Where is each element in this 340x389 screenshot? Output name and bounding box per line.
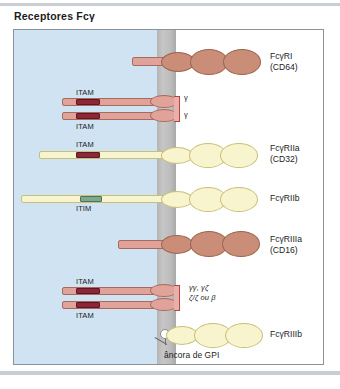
gamma-disulfide-bracket bbox=[174, 96, 180, 122]
fcgriia-ig-domain-3 bbox=[220, 143, 258, 168]
figure-title: Receptores Fcγ bbox=[14, 10, 95, 22]
itim-label: ITIM bbox=[76, 204, 91, 213]
fcgriiia-ig-domain-1 bbox=[161, 235, 193, 254]
fcgriiia-transmembrane-stalk bbox=[118, 240, 166, 249]
diagram-frame: FcγRI (CD64) ITAM ITAM γ γ ITAM FcγRIIa … bbox=[13, 29, 324, 365]
fcgriib-ig-domain-3 bbox=[220, 187, 258, 212]
figure-panel: Receptores Fcγ FcγRI (CD64) ITAM ITAM γ … bbox=[0, 0, 340, 389]
fcgri-label: FcγRI (CD64) bbox=[270, 51, 298, 73]
fcgriiia-label: FcγRIIIa (CD16) bbox=[270, 234, 302, 256]
itam-label-4: ITAM bbox=[76, 277, 94, 286]
gamma-label-2: γ bbox=[184, 110, 188, 119]
fcgriia-label: FcγRIIa (CD32) bbox=[270, 143, 300, 165]
fcgriia-cytoplasmic-tail bbox=[39, 151, 166, 159]
fcgriiia-cd: (CD16) bbox=[270, 245, 298, 255]
chain-disulfide-bracket bbox=[174, 285, 180, 311]
itam-box-5 bbox=[76, 302, 100, 308]
fcgriiib-ig-domain-3 bbox=[225, 323, 263, 348]
fcgriib-label: FcγRIIb bbox=[270, 193, 300, 204]
fcgriib-name: FcγRIIb bbox=[270, 193, 300, 203]
chain-composition-line-1: γγ, γζ bbox=[189, 283, 209, 292]
fcgriia-name: FcγRIIa bbox=[270, 143, 300, 153]
fcgri-name: FcγRI bbox=[270, 51, 292, 61]
fcgri-ig-domain-3 bbox=[223, 49, 261, 75]
fcgriia-cd: (CD32) bbox=[270, 154, 298, 164]
chain-composition-line-2: ζ/ζ ou β bbox=[189, 293, 216, 302]
fcgri-cd: (CD64) bbox=[270, 62, 298, 72]
itam-box-2 bbox=[76, 113, 100, 119]
itam-label-1: ITAM bbox=[76, 88, 94, 97]
itam-box-4 bbox=[76, 288, 100, 294]
fcgriiia-name: FcγRIIIa bbox=[270, 234, 302, 244]
gamma-label-1: γ bbox=[184, 93, 188, 102]
top-rule bbox=[0, 3, 340, 6]
fcgriiib-label: FcγRIIIb bbox=[270, 329, 302, 340]
itam-label-5: ITAM bbox=[76, 311, 94, 320]
itam-box-1 bbox=[76, 99, 100, 105]
itam-label-3: ITAM bbox=[76, 140, 94, 149]
fcgriiia-ig-domain-3 bbox=[222, 231, 260, 257]
itam-box-3 bbox=[76, 152, 100, 158]
bottom-rule bbox=[0, 371, 340, 375]
itim-box bbox=[80, 196, 102, 202]
fcgriiib-name: FcγRIIIb bbox=[270, 329, 302, 339]
itam-label-2: ITAM bbox=[76, 122, 94, 131]
gpi-anchor-label: âncora de GPI bbox=[164, 350, 219, 360]
